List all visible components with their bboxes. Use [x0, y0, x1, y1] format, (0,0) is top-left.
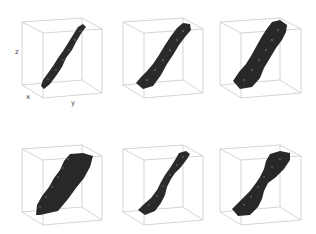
panel-bottom-middle: [103, 117, 213, 234]
cube-wireframe: [103, 0, 213, 117]
axis-label-y: y: [71, 100, 75, 107]
panel-top-middle: [103, 0, 213, 117]
panel-top-right: [206, 0, 316, 117]
axis-label-x: x: [26, 94, 30, 101]
isosurface-tapered-tube: [232, 151, 290, 216]
isosurface-pinched-tube: [138, 151, 190, 215]
panel-bottom-left: [0, 117, 110, 234]
cube-wireframe: [0, 0, 110, 117]
isosurface-wide-slab: [36, 153, 93, 215]
panel-top-left: z x y: [0, 0, 110, 117]
cube-wireframe: [206, 0, 316, 117]
cube-wireframe: [206, 117, 316, 234]
axis-label-z: z: [15, 49, 19, 56]
panel-bottom-right: [206, 117, 316, 234]
cube-wireframe: [0, 117, 110, 234]
cube-wireframe: [103, 117, 213, 234]
